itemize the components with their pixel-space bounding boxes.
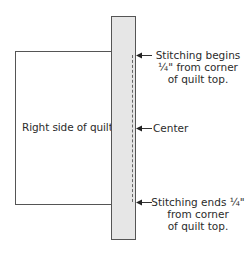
note-line: Center	[153, 122, 188, 134]
note-line: of quilt top.	[150, 73, 246, 85]
stitching-ends-note: Stitching ends ¼" from corner of quilt t…	[150, 196, 246, 232]
note-line: Stitching begins	[150, 49, 246, 61]
note-line: from corner	[150, 208, 246, 220]
arrow-left-icon	[136, 125, 152, 132]
center-note: Center	[153, 122, 188, 134]
stitching-begins-note: Stitching begins ¼" from corner of quilt…	[150, 49, 246, 85]
note-line: ¼" from corner	[150, 61, 246, 73]
note-line: of quilt top.	[150, 220, 246, 232]
quilt-label: Right side of quilt	[22, 121, 113, 133]
note-line: Stitching ends ¼"	[150, 196, 246, 208]
binding-diagram: Right side of quilt Stitching begins ¼" …	[0, 0, 250, 254]
stitching-dashed-line	[132, 55, 133, 202]
